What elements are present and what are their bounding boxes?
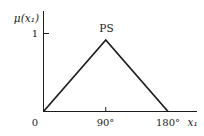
x-axis-label: x₁ <box>188 116 198 128</box>
y-tick-label-1: 1 <box>32 28 38 39</box>
membership-function-figure: μ(x₁) 1 PS 0 90° 180° x₁ <box>0 0 204 136</box>
y-axis-label: μ(x₁) <box>14 12 39 24</box>
x-tick-label-180: 180° <box>156 117 180 128</box>
fuzzy-set-label-ps: PS <box>99 22 113 34</box>
chart-canvas: μ(x₁) 1 PS 0 90° 180° x₁ <box>0 0 204 136</box>
membership-triangle-line <box>44 40 169 112</box>
x-tick-label-90: 90° <box>97 117 115 128</box>
x-tick-label-0: 0 <box>32 117 38 128</box>
